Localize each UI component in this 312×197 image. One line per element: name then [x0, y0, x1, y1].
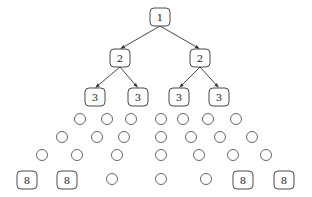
- circle-node: [201, 174, 212, 185]
- box-node-n8d: 8: [274, 171, 294, 189]
- nodes-layer: 12233338888: [17, 8, 294, 189]
- edge-arrow: [96, 67, 120, 87]
- circle-node: [92, 132, 103, 143]
- box-node-n8a: 8: [17, 171, 37, 189]
- edge-arrow: [200, 67, 218, 87]
- box-node-n2a: 2: [110, 49, 130, 67]
- node-label: 3: [216, 92, 222, 103]
- node-label: 3: [176, 92, 182, 103]
- tree-diagram: 12233338888: [0, 0, 312, 197]
- circle-node: [156, 174, 167, 185]
- edge-arrow: [160, 26, 199, 49]
- node-label: 8: [64, 175, 70, 186]
- circle-node: [37, 150, 48, 161]
- circle-node: [112, 150, 123, 161]
- box-node-n8b: 8: [57, 171, 77, 189]
- box-node-n3c: 3: [169, 88, 189, 106]
- box-node-n3a: 3: [85, 88, 105, 106]
- circle-node: [247, 132, 258, 143]
- node-label: 2: [197, 53, 203, 64]
- edge-arrow: [121, 26, 160, 49]
- circle-node: [194, 150, 205, 161]
- circle-node: [72, 150, 83, 161]
- circle-node: [107, 174, 118, 185]
- edge-arrow: [180, 67, 200, 87]
- circle-node: [231, 114, 242, 125]
- circle-node: [119, 132, 130, 143]
- node-label: 8: [281, 175, 287, 186]
- node-label: 8: [240, 175, 246, 186]
- circle-node: [126, 114, 137, 125]
- node-label: 8: [24, 175, 30, 186]
- box-node-n1: 1: [150, 8, 170, 26]
- node-label: 2: [117, 53, 123, 64]
- edge-arrow: [120, 67, 137, 87]
- circle-node: [261, 150, 272, 161]
- node-label: 3: [135, 92, 141, 103]
- circle-node: [228, 150, 239, 161]
- circle-node: [186, 132, 197, 143]
- node-label: 1: [157, 12, 163, 23]
- box-node-n3b: 3: [128, 88, 148, 106]
- node-label: 3: [92, 92, 98, 103]
- circle-node: [57, 132, 68, 143]
- circle-node: [156, 150, 167, 161]
- circle-node: [102, 114, 113, 125]
- circle-node: [75, 114, 86, 125]
- circle-node: [203, 114, 214, 125]
- box-node-n2b: 2: [190, 49, 210, 67]
- circle-node: [156, 114, 167, 125]
- box-node-n8c: 8: [233, 171, 253, 189]
- circle-node: [156, 132, 167, 143]
- circle-node: [215, 132, 226, 143]
- circle-node: [178, 114, 189, 125]
- box-node-n3d: 3: [209, 88, 229, 106]
